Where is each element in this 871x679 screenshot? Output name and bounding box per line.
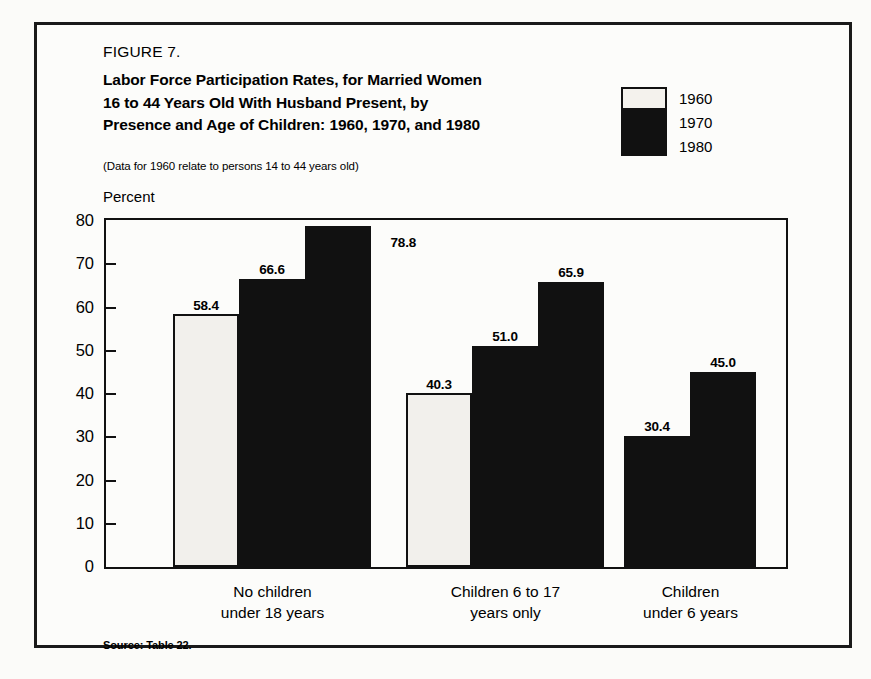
bar-1980-group1: 78.8 xyxy=(305,226,371,567)
bar-value-label: 30.4 xyxy=(644,419,669,434)
x-axis-category-line: under 6 years xyxy=(581,602,801,623)
bar-1960-group1: 58.4 xyxy=(173,314,239,567)
figure-title-line-2: 16 to 44 Years Old With Husband Present,… xyxy=(103,92,623,115)
legend-label-1970: 1970 xyxy=(679,115,712,130)
y-axis-tick-label: 80 xyxy=(76,211,94,230)
legend-label-1960: 1960 xyxy=(679,91,712,106)
bar-value-label: 51.0 xyxy=(492,329,517,344)
bar-value-label: 45.0 xyxy=(710,355,735,370)
y-axis-tick-label: 0 xyxy=(85,557,94,576)
figure-title-line-3: Presence and Age of Children: 1960, 1970… xyxy=(103,114,623,137)
figure-page: FIGURE 7. Labor Force Participation Rate… xyxy=(0,0,871,679)
y-axis-tick-label: 10 xyxy=(76,513,94,532)
bar-value-label: 66.6 xyxy=(259,262,284,277)
y-axis-tick xyxy=(105,436,116,438)
figure-title-line-1: Labor Force Participation Rates, for Mar… xyxy=(103,69,623,92)
plot-area: 0102030405060708058.466.678.840.351.065.… xyxy=(104,218,788,569)
y-axis-tick xyxy=(105,350,116,352)
figure-border: FIGURE 7. Labor Force Participation Rate… xyxy=(34,22,852,648)
bar-value-label: 65.9 xyxy=(558,265,583,280)
legend-swatch-1960 xyxy=(623,89,665,110)
y-axis-tick-label: 60 xyxy=(76,297,94,316)
page-title: Labor Force Participation Rates, for Mar… xyxy=(103,69,623,137)
chart-legend: 1960 1970 1980 xyxy=(621,65,801,155)
bar-1970-group3: 30.4 xyxy=(624,436,690,567)
figure-number-label: FIGURE 7. xyxy=(103,43,181,61)
y-axis-tick-label: 50 xyxy=(76,340,94,359)
y-axis-tick xyxy=(105,307,116,309)
bar-1970-group1: 66.6 xyxy=(239,279,305,567)
bar-1980-group3: 45.0 xyxy=(690,372,756,567)
x-axis-category-line: Children xyxy=(581,581,801,602)
y-axis-tick xyxy=(105,523,116,525)
bar-value-label: 40.3 xyxy=(426,377,451,392)
x-axis-category-label: No childrenunder 18 years xyxy=(163,581,383,623)
y-axis-tick xyxy=(105,480,116,482)
bar-1980-group2: 65.9 xyxy=(538,282,604,567)
bar-1960-group2: 40.3 xyxy=(406,393,472,567)
y-axis-unit-label: Percent xyxy=(103,188,155,205)
x-axis-category-label: Childrenunder 6 years xyxy=(581,581,801,623)
y-axis-tick-label: 30 xyxy=(76,427,94,446)
y-axis-tick-label: 40 xyxy=(76,384,94,403)
legend-swatch xyxy=(621,87,667,156)
source-note: Source: Table 22. xyxy=(103,639,192,651)
bar-value-label: 58.4 xyxy=(193,298,218,313)
legend-label-1980: 1980 xyxy=(679,139,712,154)
x-axis-category-line: under 18 years xyxy=(163,602,383,623)
y-axis-tick xyxy=(105,263,116,265)
bar-1970-group2: 51.0 xyxy=(472,346,538,567)
bar-value-label: 78.8 xyxy=(391,235,416,250)
y-axis-tick-label: 20 xyxy=(76,470,94,489)
y-axis-tick xyxy=(105,393,116,395)
plot-inner: 0102030405060708058.466.678.840.351.065.… xyxy=(106,220,786,567)
figure-note: (Data for 1960 relate to persons 14 to 4… xyxy=(103,160,359,172)
x-axis-category-line: No children xyxy=(163,581,383,602)
y-axis-tick-label: 70 xyxy=(76,254,94,273)
